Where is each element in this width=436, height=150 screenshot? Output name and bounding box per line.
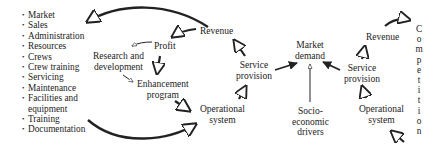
resource-list: Market Sales Administration Resources Cr… xyxy=(22,10,85,135)
node-label: Service xyxy=(236,60,272,71)
node-label: Service xyxy=(344,63,380,74)
node-label: demand xyxy=(295,51,325,62)
letter: i xyxy=(414,85,424,95)
node-operational-system-right: Operational system xyxy=(359,104,404,125)
list-item: Market xyxy=(22,10,85,20)
arrow-profit-to-rd xyxy=(132,42,152,46)
node-label: Enhancement xyxy=(137,79,189,90)
node-market-demand: Market demand xyxy=(295,40,325,61)
list-item: Training xyxy=(22,114,85,124)
node-label: program xyxy=(137,90,189,101)
node-label: Operational xyxy=(200,104,245,115)
node-label: Profit xyxy=(154,41,176,51)
list-item: Documentation xyxy=(22,124,85,134)
arrow-revenue-to-resources xyxy=(87,8,208,27)
node-label: system xyxy=(359,115,404,126)
letter: t xyxy=(414,95,424,105)
letter: n xyxy=(414,126,424,136)
node-research-development: Research and development xyxy=(93,51,144,72)
arrow-competition-to-operational xyxy=(391,131,404,142)
list-item: Crews xyxy=(22,52,85,62)
letter: m xyxy=(414,44,424,54)
node-label: economic xyxy=(292,117,329,128)
letter: i xyxy=(414,106,424,116)
arrow-operational-to-service xyxy=(239,86,246,99)
node-label: Market xyxy=(295,40,325,51)
letter: p xyxy=(414,55,424,65)
list-item: Administration xyxy=(22,31,85,41)
list-item: Crew training xyxy=(22,62,85,72)
node-revenue-left: Revenue xyxy=(200,26,233,37)
node-label: Research and xyxy=(93,51,144,62)
arrow-service-left-to-market xyxy=(275,63,297,70)
node-label: development xyxy=(93,62,144,73)
arrow-enhancement-to-operational xyxy=(175,101,190,111)
list-item-continuation: equipment xyxy=(22,104,85,114)
arrow-right-service-to-revenue xyxy=(362,46,365,59)
node-operational-system-left: Operational system xyxy=(200,104,245,125)
arrow-service-right-to-market xyxy=(323,62,340,70)
node-service-provision-right: Service provision xyxy=(344,63,380,84)
node-profit: Profit xyxy=(154,41,176,52)
node-label: provision xyxy=(344,74,380,85)
arrow-profit-to-enhancement xyxy=(157,56,160,74)
node-label: Revenue xyxy=(366,32,399,42)
node-label: provision xyxy=(236,71,272,82)
arrow-resources-to-operational xyxy=(88,120,196,139)
letter: C xyxy=(414,24,424,34)
arrow-revenue-to-profit xyxy=(172,29,196,37)
node-socio-economic-drivers: Socio- economic drivers xyxy=(292,106,329,138)
node-label: Operational xyxy=(359,104,404,115)
node-service-provision-left: Service provision xyxy=(236,60,272,81)
arrow-right-operational-to-service xyxy=(362,86,366,98)
letter: t xyxy=(414,75,424,85)
competition-label: C o m p e t i t i o n xyxy=(414,24,424,136)
list-item: Facilities and xyxy=(22,93,85,103)
letter: o xyxy=(414,116,424,126)
node-label: system xyxy=(200,115,245,126)
arrow-rd-to-enhancement xyxy=(123,75,133,82)
letter: o xyxy=(414,34,424,44)
list-item: Sales xyxy=(22,20,85,30)
node-label: drivers xyxy=(292,127,329,138)
list-item: Maintenance xyxy=(22,83,85,93)
list-item: Servicing xyxy=(22,72,85,82)
node-revenue-right: Revenue xyxy=(366,32,399,43)
arrow-revenue-to-competition xyxy=(385,19,410,26)
letter: e xyxy=(414,65,424,75)
node-enhancement-program: Enhancement program xyxy=(137,79,189,100)
node-label: Socio- xyxy=(292,106,329,117)
node-label: Revenue xyxy=(200,26,233,36)
list-item: Resources xyxy=(22,41,85,51)
arrow-service-to-revenue xyxy=(234,40,245,56)
